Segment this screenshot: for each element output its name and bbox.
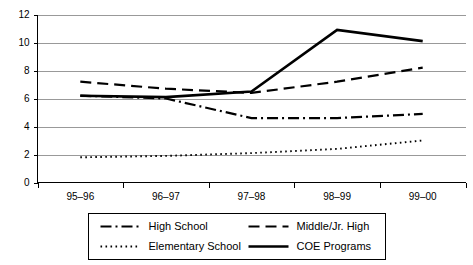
series-line-elementary-school — [80, 141, 422, 158]
gridlines-group — [38, 16, 466, 156]
y-tick-label-0: 0 — [24, 177, 30, 188]
x-tick-label-3: 98–99 — [323, 191, 351, 202]
x-tick-label-1: 96–97 — [152, 191, 180, 202]
y-tick-label-8: 8 — [24, 65, 30, 76]
axes-group — [34, 15, 467, 188]
y-tick-label-4: 4 — [24, 121, 30, 132]
y-tick-label-6: 6 — [24, 93, 30, 104]
legend-label: Elementary School — [149, 240, 241, 252]
line-chart: 024681012 95–9696–9797–9898–9999–00 High… — [0, 0, 473, 265]
data-series-group — [80, 30, 422, 157]
legend: High SchoolMiddle/Jr. HighElementary Sch… — [89, 214, 386, 260]
chart-canvas: 024681012 95–9696–9797–9898–9999–00 High… — [0, 0, 473, 265]
x-tick-label-0: 95–96 — [66, 191, 94, 202]
series-line-high-school — [80, 96, 422, 118]
legend-label: COE Programs — [297, 240, 372, 252]
y-tick-label-2: 2 — [24, 149, 30, 160]
legend-label: Middle/Jr. High — [297, 220, 370, 232]
x-tick-label-4: 99–00 — [409, 191, 437, 202]
series-line-coe-programs — [80, 30, 422, 97]
y-tick-label-12: 12 — [18, 9, 30, 20]
legend-label: High School — [149, 220, 208, 232]
x-tick-label-2: 97–98 — [238, 191, 266, 202]
y-tick-label-10: 10 — [18, 37, 30, 48]
y-axis-tick-labels: 024681012 — [18, 9, 30, 188]
x-axis-tick-labels: 95–9696–9797–9898–9999–00 — [66, 191, 437, 202]
